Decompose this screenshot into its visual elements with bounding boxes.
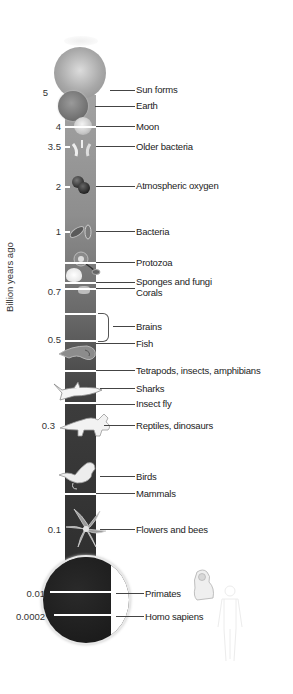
leader-sponges [96,282,135,283]
label-reptiles-dinosaurs: Reptiles, dinosaurs [136,420,213,431]
ytick-0-5: 0.5 [21,334,61,345]
leader-protozoa [96,262,135,263]
label-fish: Fish [136,338,153,349]
label-sharks: Sharks [136,383,164,394]
label-insect-fly: Insect fly [136,398,172,409]
ytick-0-3: 0.3 [15,420,55,431]
leader-sharks [100,388,135,389]
recent-era-circle [43,557,129,643]
tick-bacteria [65,231,70,233]
tick-primates [50,591,116,593]
label-homo-sapiens: Homo sapiens [145,611,203,622]
label-moon: Moon [136,121,159,132]
tick-oxygen [65,186,70,188]
label-brains: Brains [136,321,162,332]
leader-earth [95,106,135,107]
leader-moon [96,126,135,127]
ytick-2: 2 [21,181,61,192]
label-flowers-bees: Flowers and bees [136,524,208,535]
brains-bracket [98,313,109,342]
timeline-bar [65,95,96,575]
label-earth: Earth [136,100,158,111]
sponge-icon [66,268,82,282]
tick-corals [65,288,96,290]
older-bacteria-icon [70,138,94,158]
label-birds: Birds [136,471,157,482]
tick-sponges [65,282,96,284]
leader-corals [96,288,135,289]
shark-icon [52,380,104,402]
evolution-timeline: Sun forms Earth Moon Older bacteria Atmo… [0,0,293,694]
oxygen-molecule-icon-2 [78,182,90,194]
flower-icon [64,505,110,551]
tick-brains-top [65,313,96,315]
tick-homo-sapiens [54,614,116,616]
leader-flowers [100,529,135,530]
tick-fish [65,340,96,342]
sun-icon [54,47,106,99]
ytick-1: 1 [21,226,61,237]
leader-brains [113,326,135,327]
label-corals: Corals [136,287,162,298]
dinosaur-icon [58,408,114,438]
leader-mammals [96,493,135,494]
fish-icon [57,342,99,364]
leader-fish [96,343,135,344]
label-older-bacteria: Older bacteria [136,141,193,152]
ytick-5: 5 [8,87,48,98]
leader-insect-fly [96,404,135,405]
leader-birds [100,476,135,477]
ytick-4: 4 [21,121,61,132]
label-mammals: Mammals [136,488,176,499]
leader-older-bacteria [96,146,135,147]
label-tetrapods: Tetrapods, insects, amphibians [136,365,260,376]
bird-icon [57,457,101,491]
leader-oxygen [96,186,135,187]
ytick-0-0002: 0.0002 [5,611,45,622]
bacteria-icon [69,223,95,241]
ytick-3-5: 3.5 [21,141,61,152]
leader-tetrapods [96,370,135,371]
leader-homo-sapiens [116,616,144,617]
sun-glow-icon [64,36,98,46]
label-sponges-fungi: Sponges and fungi [136,276,212,287]
leader-reptiles [104,425,135,426]
leader-sun [110,90,135,91]
tick-protozoa [65,262,96,264]
human-icon [212,583,248,663]
leader-primates [116,593,144,594]
y-axis-title: Billion years ago [4,242,15,312]
ytick-0-7: 0.7 [21,286,61,297]
leader-bacteria [96,231,135,232]
label-bacteria: Bacteria [136,226,169,237]
label-atmospheric-oxygen: Atmospheric oxygen [136,180,218,191]
ytick-0-01: 0.01 [5,588,45,599]
label-sun-forms: Sun forms [136,84,178,95]
tick-insect-fly [65,402,96,404]
tick-tetrapods [65,370,96,372]
ytick-0-1: 0.1 [21,524,61,535]
label-protozoa: Protozoa [136,257,172,268]
label-primates: Primates [145,588,181,599]
tick-older-bacteria [65,146,70,148]
tick-mammals [65,493,96,495]
tick-moon [65,126,96,128]
